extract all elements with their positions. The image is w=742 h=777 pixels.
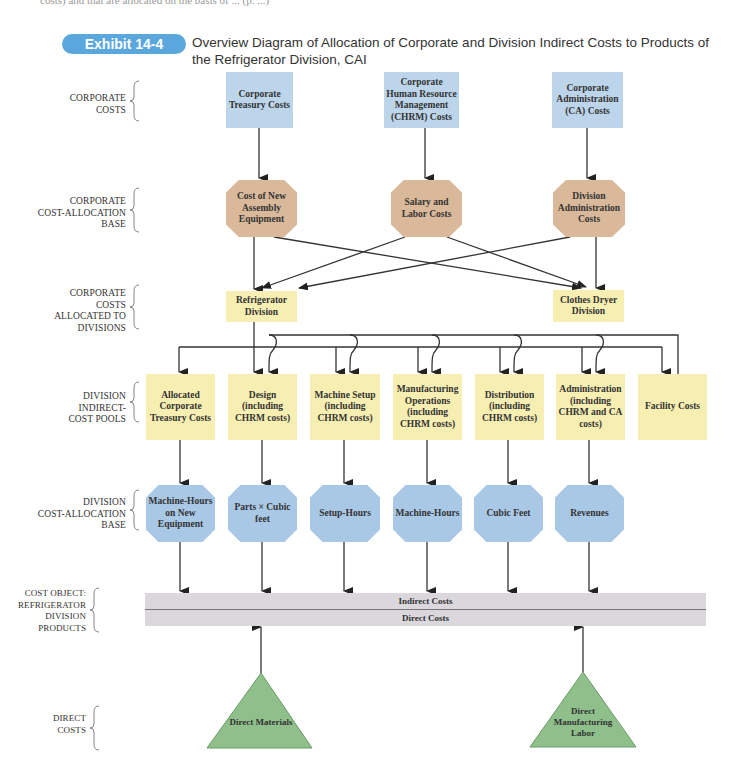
indirect-costs-bar: Indirect Costs bbox=[145, 593, 706, 610]
label-line: PRODUCTS bbox=[0, 623, 86, 635]
label-line: COST-ALLOCATION bbox=[20, 208, 126, 220]
direct-manufacturing-labor-label: Direct Manufacturing Labor bbox=[548, 706, 618, 739]
row-label-division-base: DIVISION COST-ALLOCATION BASE bbox=[20, 497, 126, 532]
label-line: COST-ALLOCATION bbox=[20, 509, 126, 521]
clothes-dryer-division: Clothes Dryer Division bbox=[553, 290, 624, 322]
label-line: COSTS bbox=[20, 725, 86, 737]
corporate-ca-costs: Corporate Administration (CA) Costs bbox=[552, 72, 623, 128]
label-line: DIVISION bbox=[0, 611, 86, 623]
direct-materials-label: Direct Materials bbox=[226, 717, 296, 728]
base-setup-hours: Setup-Hours bbox=[310, 485, 380, 542]
base-parts-cubic-feet: Parts × Cubic feet bbox=[228, 485, 297, 542]
corporate-chrm-costs: Corporate Human Resource Management (CHR… bbox=[384, 72, 459, 128]
label-line: DIVISION bbox=[20, 497, 126, 509]
refrigerator-division: Refrigerator Division bbox=[226, 291, 297, 322]
base-machine-hours-new-equipment: Machine-Hours on New Equipment bbox=[146, 485, 215, 542]
label-line: REFRIGERATOR bbox=[0, 600, 86, 612]
pool-machine-setup: Machine Setup (including CHRM costs) bbox=[310, 374, 380, 440]
label-line: CORPORATE bbox=[20, 288, 126, 300]
row-label-cost-object: COST OBJECT: REFRIGERATOR DIVISION PRODU… bbox=[0, 588, 86, 634]
pool-facility-costs: Facility Costs bbox=[638, 374, 707, 440]
label-line: DIRECT bbox=[20, 713, 86, 725]
row-label-direct-costs: DIRECT COSTS bbox=[20, 713, 86, 736]
label-line: DIVISION bbox=[20, 391, 126, 403]
label-line: COSTS bbox=[40, 105, 126, 117]
label-line: COST POOLS bbox=[20, 414, 126, 426]
label-line: BASE bbox=[20, 520, 126, 532]
label-line: ALLOCATED TO bbox=[20, 311, 126, 323]
row-label-pools: DIVISION INDIRECT- COST POOLS bbox=[20, 391, 126, 426]
label-line: BASE bbox=[20, 219, 126, 231]
label-line: DIVISIONS bbox=[20, 323, 126, 335]
label-line: CORPORATE bbox=[40, 93, 126, 105]
pool-administration: Administration (including CHRM and CA co… bbox=[556, 374, 625, 440]
label-line: CORPORATE bbox=[20, 196, 126, 208]
direct-costs-bar: Direct Costs bbox=[145, 610, 706, 626]
label-line: COST OBJECT: bbox=[0, 588, 86, 600]
pool-design: Design (including CHRM costs) bbox=[228, 374, 297, 440]
label-line: COSTS bbox=[20, 300, 126, 312]
row-label-corporate-base: CORPORATE COST-ALLOCATION BASE bbox=[20, 196, 126, 231]
corporate-treasury-costs: Corporate Treasury Costs bbox=[226, 72, 293, 128]
pool-distribution: Distribution (including CHRM costs) bbox=[475, 374, 544, 440]
direct-materials-triangle bbox=[207, 673, 312, 748]
base-salary-labor-costs: Salary and Labor Costs bbox=[391, 180, 462, 237]
row-label-allocated: CORPORATE COSTS ALLOCATED TO DIVISIONS bbox=[20, 288, 126, 334]
pool-allocated-treasury: Allocated Corporate Treasury Costs bbox=[146, 374, 215, 440]
base-cubic-feet: Cubic Feet bbox=[474, 485, 543, 542]
base-revenues: Revenues bbox=[555, 485, 624, 542]
label-line: INDIRECT- bbox=[20, 403, 126, 415]
base-machine-hours: Machine-Hours bbox=[393, 485, 462, 542]
base-new-assembly-equipment: Cost of New Assembly Equipment bbox=[226, 180, 297, 237]
row-label-corporate-costs: CORPORATE COSTS bbox=[40, 93, 126, 116]
pool-manufacturing-operations: Manufacturing Operations (including CHRM… bbox=[393, 374, 462, 440]
base-division-administration-costs: Division Administration Costs bbox=[553, 180, 625, 237]
